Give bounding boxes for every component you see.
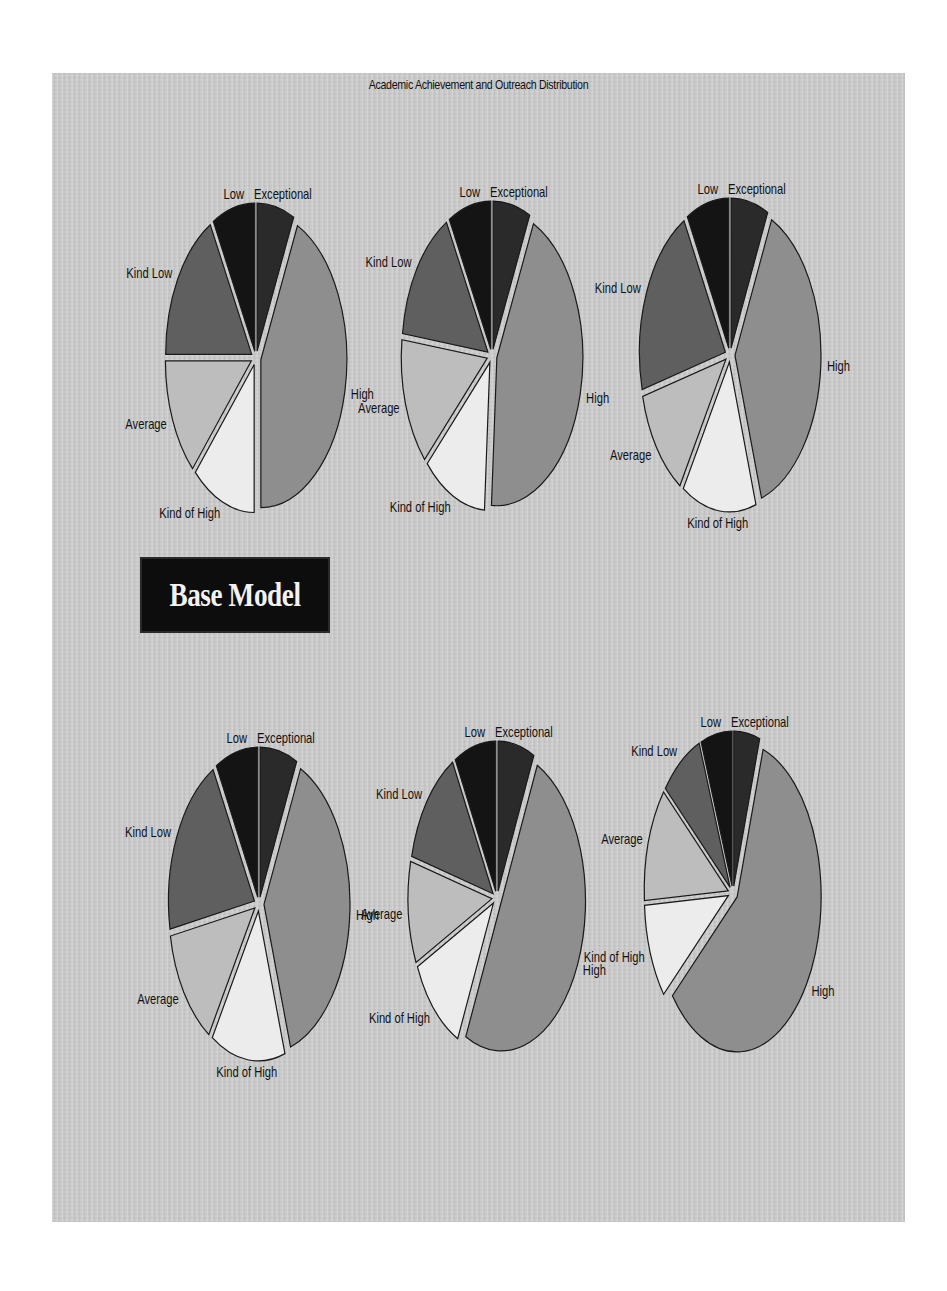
pie-svg: ExceptionalHighKind of HighAverageKind L… <box>0 0 947 1291</box>
pie-label-kind-of-high: Kind of High <box>584 950 645 965</box>
pie-label-high: High <box>812 984 835 999</box>
pie-label-kind-low: Kind Low <box>631 744 678 759</box>
base-model-badge: Base Model <box>140 557 330 633</box>
base-model-label: Base Model <box>169 576 300 614</box>
pie-label-low: Low <box>700 715 721 730</box>
pie-label-exceptional: Exceptional <box>731 715 789 730</box>
pie-chart-bottom-right: ExceptionalHighKind of HighAverageKind L… <box>0 0 947 1291</box>
pie-label-average: Average <box>601 832 642 847</box>
